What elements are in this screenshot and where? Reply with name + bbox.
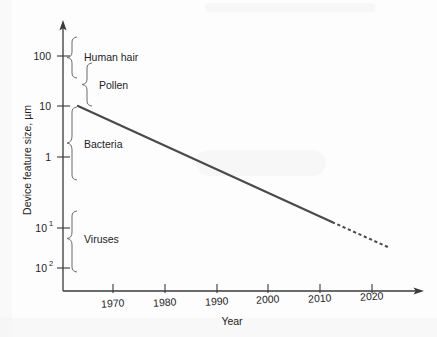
data-series-group xyxy=(78,106,390,248)
annotation-label-human-hair: Human hair xyxy=(84,51,139,63)
y-tick-label-0.1-mantissa: 10 xyxy=(35,222,47,234)
x-tick-label-1980: 1980 xyxy=(153,295,177,308)
x-tick-labels: 1970 1980 1990 2000 2010 2020 xyxy=(101,289,384,309)
y-tick-label-10: 10 xyxy=(39,100,51,112)
brace-viruses xyxy=(67,211,77,272)
annotation-label-pollen: Pollen xyxy=(99,79,128,91)
annotation-bacteria: Bacteria xyxy=(67,107,123,180)
y-tick-label-0.1-exponent: 1 xyxy=(49,219,53,228)
chart-svg: 100 10 1 10 1 10 2 1970 1980 1990 2000 2… xyxy=(0,0,437,337)
annotation-viruses: Viruses xyxy=(67,211,119,272)
y-tick-label-1: 1 xyxy=(45,151,51,163)
x-tick-label-2010: 2010 xyxy=(308,291,332,304)
y-axis-title: Device feature size, µm xyxy=(21,105,33,215)
y-tick-label-100: 100 xyxy=(33,50,51,62)
x-axis-title: Year xyxy=(221,315,243,327)
series-line-projected xyxy=(332,222,390,248)
brace-pollen xyxy=(82,63,92,106)
y-tick-labels: 100 10 1 10 1 10 2 xyxy=(33,50,53,274)
x-tick-label-2020: 2020 xyxy=(360,289,384,302)
annotation-label-bacteria: Bacteria xyxy=(84,138,123,150)
y-tick-label-0.01-exponent: 2 xyxy=(49,259,53,268)
x-tick-label-1970: 1970 xyxy=(101,296,125,309)
annotation-pollen: Pollen xyxy=(82,63,128,106)
annotation-human-hair: Human hair xyxy=(67,37,139,78)
brace-human-hair xyxy=(67,37,77,78)
x-tick-label-1990: 1990 xyxy=(205,294,229,307)
brace-bacteria xyxy=(67,107,77,180)
y-tick-label-0.01-mantissa: 10 xyxy=(35,262,47,274)
x-tick-label-2000: 2000 xyxy=(256,292,280,305)
annotation-label-viruses: Viruses xyxy=(84,233,119,245)
chart-figure: 100 10 1 10 1 10 2 1970 1980 1990 2000 2… xyxy=(0,0,437,337)
